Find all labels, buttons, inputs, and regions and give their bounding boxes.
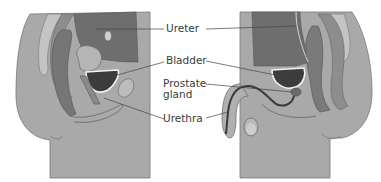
female-pelvis-figure [16, 12, 150, 178]
label-bladder: Bladder [166, 55, 207, 66]
label-prostate-line2: gland [163, 89, 192, 100]
male-testis-inner [246, 123, 256, 135]
label-ureter: Ureter [166, 23, 199, 34]
female-ovary [105, 31, 112, 41]
female-uterus [77, 46, 102, 72]
male-prostate [291, 88, 301, 96]
male-pelvis-figure [222, 12, 372, 178]
label-urethra: Urethra [163, 113, 203, 124]
